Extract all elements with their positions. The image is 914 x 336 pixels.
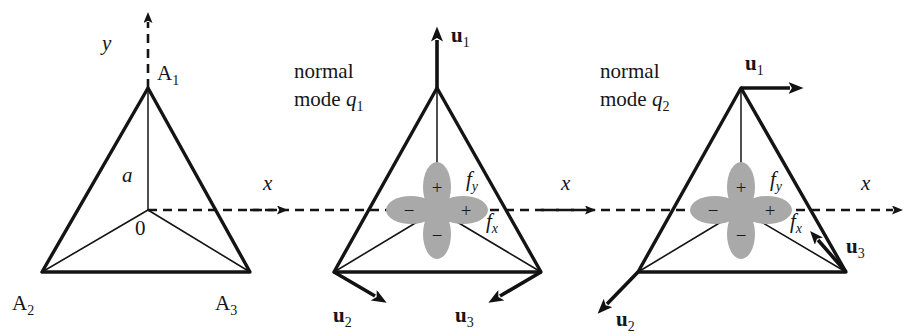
orbital-sign-left-q2: − — [708, 200, 719, 221]
force-label-fy-q2: fy — [770, 167, 783, 194]
displacement-label-u1-q1: u1 — [451, 23, 470, 50]
displacement-label-u2-q2: u2 — [616, 307, 635, 334]
x-axis-label-q1: x — [560, 171, 571, 195]
panel-mode-q2 — [541, 88, 893, 304]
x-axis-label: x — [262, 171, 273, 195]
orbital-sign-right-q1: + — [461, 200, 472, 221]
displacement-label-u3-q2: u3 — [846, 234, 865, 261]
orbital-sign-top-q1: + — [432, 177, 443, 198]
displacement-vector-u3-q1 — [500, 272, 541, 296]
force-label-fy-q1: fy — [466, 167, 479, 194]
force-label-fx-q1: fx — [486, 209, 499, 236]
orbital-sign-bottom-q2: − — [736, 225, 747, 246]
side-length-label: a — [122, 163, 133, 187]
vertex-label-a3: A3 — [215, 291, 237, 318]
mode-caption-line2-q1: mode q1 — [294, 87, 363, 114]
orbital-sign-top-q2: + — [736, 177, 747, 198]
figure-canvas: y x a 0 A1 A2 A3 normal mode q1 u1 u2 u3… — [0, 0, 914, 336]
mode-caption-line1-q2: normal — [600, 59, 660, 83]
origin-label: 0 — [135, 216, 146, 240]
orbital-sign-right-q2: + — [765, 200, 776, 221]
y-axis-label: y — [100, 31, 112, 55]
displacement-vector-u2-q1 — [334, 272, 375, 296]
triangle-outline — [42, 88, 250, 272]
x-axis-label-q2: x — [860, 171, 871, 195]
vertex-label-a1: A1 — [157, 61, 179, 88]
force-label-fx-q2: fx — [790, 209, 803, 236]
displacement-vector-u2-q2 — [607, 272, 638, 304]
normal-modes-figure: y x a 0 A1 A2 A3 normal mode q1 u1 u2 u3… — [0, 0, 914, 336]
orbital-sign-bottom-q1: − — [432, 225, 443, 246]
displacement-label-u1-q2: u1 — [745, 51, 764, 78]
vertex-label-a2: A2 — [12, 291, 34, 318]
orbital-sign-left-q1: − — [404, 200, 415, 221]
panel-geometry — [42, 22, 278, 272]
displacement-label-u3-q1: u3 — [455, 303, 474, 330]
mode-caption-line2-q2: mode q2 — [600, 87, 669, 114]
displacement-label-u2-q1: u2 — [333, 303, 352, 330]
mode-caption-line1-q1: normal — [294, 59, 354, 83]
